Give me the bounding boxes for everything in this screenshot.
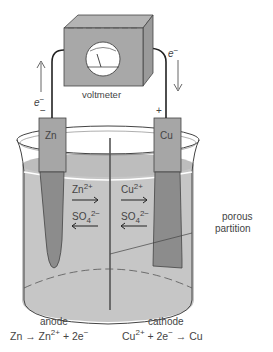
cu-ion-label: Cu2+ (121, 183, 143, 195)
voltmeter (64, 15, 153, 86)
zn-label: Zn (45, 131, 57, 141)
so4-left-label: SO42− (72, 210, 100, 225)
dial-icon (86, 42, 120, 76)
cathode-equation: Cu2+ + 2e− → Cu (122, 329, 203, 341)
anode-label: anode (40, 317, 68, 327)
partition-label: partition (215, 224, 251, 234)
galvanic-cell-diagram (0, 0, 273, 352)
electron-right-label: e− (168, 47, 178, 59)
anode-equation: Zn → Zn2+ + 2e− (10, 329, 88, 341)
electron-arrow-up-icon (37, 61, 45, 92)
cu-label: Cu (160, 131, 173, 141)
zn-ion-label: Zn2+ (72, 183, 93, 195)
voltmeter-label: voltmeter (82, 90, 121, 100)
porous-label: porous (222, 212, 253, 222)
left-wire (52, 50, 64, 118)
electron-arrow-down-icon (174, 60, 182, 91)
so4-right-label: SO42− (121, 210, 149, 225)
cathode-label: cathode (148, 317, 184, 327)
terminal-negative: − (40, 106, 46, 116)
terminal-positive: + (156, 106, 162, 116)
